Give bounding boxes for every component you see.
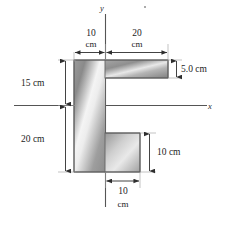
coordinate-axes: [14, 14, 207, 207]
dim-label-top-right-value: 20: [127, 28, 147, 38]
figure-container: y x 10 cm 20 cm 5.0 cm 15 cm 20 cm 10 cm…: [0, 0, 227, 228]
dim-label-top-left-value: 10: [81, 28, 101, 38]
x-axis-label: x: [208, 101, 212, 111]
dim-label-tab-width-value: 10: [112, 186, 134, 196]
y-axis-label: y: [100, 3, 104, 13]
dim-label-top-right-unit: cm: [126, 39, 148, 49]
dim-flange-group: [168, 60, 182, 78]
shape-top-flange-rect: [105, 60, 168, 78]
shape-web-rect: [74, 60, 106, 172]
dim-label-upper-left-height: 15 cm: [21, 78, 44, 88]
dim-tab-height-group: [140, 133, 156, 172]
dim-left-group: [58, 60, 76, 172]
shape-bottom-tab-rect: [105, 133, 140, 172]
cross-section-shape: [74, 60, 168, 172]
figure-caption: [8, 218, 208, 227]
dim-label-top-left-unit: cm: [80, 39, 102, 49]
artifact-speck: [144, 6, 146, 8]
dim-label-lower-left-height: 20 cm: [21, 134, 44, 144]
dim-label-flange-thickness: 5.0 cm: [181, 64, 207, 74]
dim-label-tab-width-unit: cm: [112, 199, 134, 209]
dim-label-tab-height: 10 cm: [157, 147, 180, 157]
